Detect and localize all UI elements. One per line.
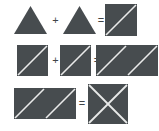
plus-operator-row1: +: [50, 15, 61, 26]
square-diagonal-3: [60, 45, 91, 76]
square-diagonal-2: [17, 45, 48, 76]
square-diagonal-4: [96, 45, 127, 76]
figure-canvas: + = + = =: [0, 0, 159, 131]
square-diagonal-5: [127, 45, 158, 76]
triangle-up-2: [63, 6, 96, 34]
square-diagonal-1: [105, 4, 137, 36]
equals-operator-row3: =: [77, 98, 87, 109]
square-diagonal-6: [14, 88, 45, 119]
triangle-up-1: [14, 6, 47, 34]
square-diagonal-7: [45, 88, 76, 119]
square-x-1: [88, 84, 128, 124]
